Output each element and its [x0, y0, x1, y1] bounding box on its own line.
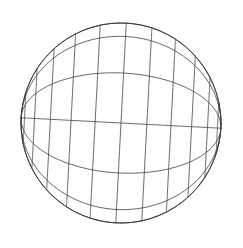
figure-root: Wireframe Sphere Graticule: [0, 0, 243, 248]
wireframe-sphere-figure: Wireframe Sphere Graticule: [0, 0, 243, 248]
figure-background: [0, 0, 243, 248]
